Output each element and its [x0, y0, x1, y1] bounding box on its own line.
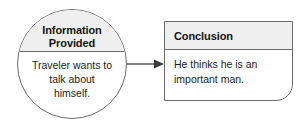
- node-information-provided-body-line-3: himself.: [54, 86, 90, 100]
- node-conclusion[interactable]: Conclusion He thinks he is an important …: [164, 21, 293, 101]
- node-conclusion-body-line-1: He thinks he is an: [174, 57, 284, 72]
- node-information-provided-body: Traveler wants to talk about himself.: [18, 53, 126, 119]
- node-information-provided-header-line-2: Provided: [49, 37, 95, 50]
- node-conclusion-body-line-2: important man.: [174, 72, 284, 87]
- node-information-provided-body-line-1: Traveler wants to: [32, 58, 112, 72]
- arrow-connector-icon: [126, 56, 166, 72]
- node-information-provided-header-line-1: Information: [42, 24, 101, 37]
- node-conclusion-header-title: Conclusion: [174, 30, 233, 42]
- node-information-provided-header: Information Provided: [18, 10, 126, 52]
- node-conclusion-body: He thinks he is an important man.: [165, 51, 292, 101]
- node-information-provided-body-line-2: talk about: [49, 72, 95, 86]
- node-conclusion-header: Conclusion: [165, 22, 292, 50]
- node-information-provided[interactable]: Information Provided Traveler wants to t…: [17, 9, 127, 119]
- diagram-canvas: Information Provided Traveler wants to t…: [0, 0, 308, 122]
